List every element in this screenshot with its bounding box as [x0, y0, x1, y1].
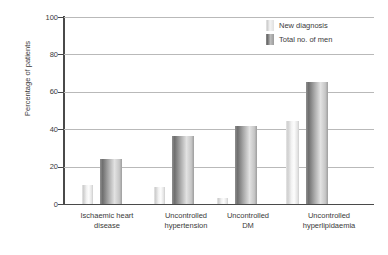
bar-uncontrolled-hyperlipidaemia-new-diagnosis [286, 121, 299, 204]
legend-item-total-no-of-men: Total no. of men [266, 34, 332, 45]
y-tick-label-40: 40 [32, 126, 58, 134]
legend-swatch-light-icon [266, 20, 274, 31]
gridline-80 [64, 54, 374, 55]
legend: New diagnosis Total no. of men [266, 20, 332, 45]
bar-uncontrolled-hyperlipidaemia-total-no-of-men [306, 82, 328, 205]
bar-chart: Percentage of patients 100 80 60 40 20 0… [0, 0, 388, 255]
y-tick-label-80: 80 [32, 51, 58, 59]
bar-uncontrolled-dm-new-diagnosis [217, 198, 228, 204]
legend-swatch-dark-icon [266, 34, 274, 45]
legend-label-new-diagnosis: New diagnosis [279, 22, 328, 30]
bar-ischaemic-heart-disease-new-diagnosis [82, 185, 93, 204]
y-tick-label-60: 60 [32, 88, 58, 96]
x-category-line-2: disease [62, 221, 152, 231]
bar-uncontrolled-hypertension-total-no-of-men [172, 136, 194, 204]
y-tick-label-0: 0 [32, 201, 58, 209]
x-category-line-1: Uncontrolled [281, 211, 377, 221]
x-category-label-uncontrolled-hyperlipidaemia: Uncontrolled hyperlipidaemia [281, 211, 377, 231]
x-category-line-2: DM [208, 221, 288, 231]
bar-ischaemic-heart-disease-total-no-of-men [100, 159, 122, 204]
y-axis-title: Percentage of patients [23, 20, 32, 138]
bar-uncontrolled-hypertension-new-diagnosis [154, 187, 165, 204]
x-category-label-uncontrolled-dm: Uncontrolled DM [208, 211, 288, 231]
y-tick-label-20: 20 [32, 163, 58, 171]
gridline-100 [64, 17, 374, 18]
bar-uncontrolled-dm-total-no-of-men [235, 126, 257, 205]
plot-area [64, 17, 374, 204]
x-category-line-2: hyperlipidaemia [281, 221, 377, 231]
legend-label-total-no-of-men: Total no. of men [279, 36, 332, 44]
x-category-line-1: Uncontrolled [208, 211, 288, 221]
x-category-label-ischaemic-heart-disease: Ischaemic heart disease [62, 211, 152, 231]
x-category-line-1: Ischaemic heart [62, 211, 152, 221]
y-tick-label-100: 100 [32, 14, 58, 22]
legend-item-new-diagnosis: New diagnosis [266, 20, 332, 31]
